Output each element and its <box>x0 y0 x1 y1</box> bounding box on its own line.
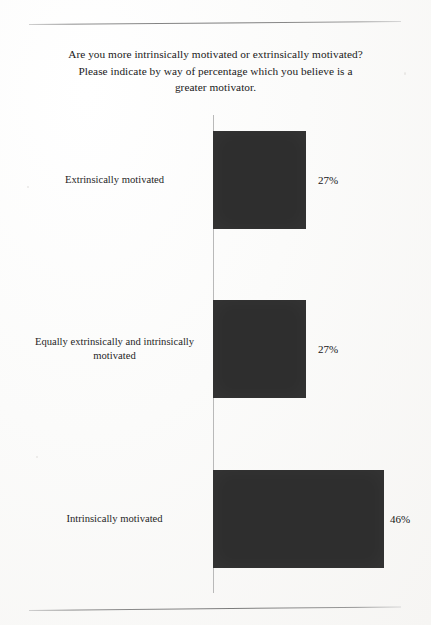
scan-speck <box>36 456 38 458</box>
bar-value-intrinsically-motivated: 46% <box>390 470 410 568</box>
bar-row: Equally extrinsically and intrinsically … <box>0 300 431 398</box>
category-label-equally-extrinsically-and-intrinsically-motivated: Equally extrinsically and intrinsically … <box>22 300 207 398</box>
bar-extrinsically-motivated <box>213 131 306 229</box>
bar-intrinsically-motivated <box>213 470 384 568</box>
bar-chart-plot-area: Extrinsically motivated 27% Equally extr… <box>0 110 431 595</box>
scan-speck <box>404 72 406 75</box>
chart-title-line-1: Are you more intrinsically motivated or … <box>50 46 381 63</box>
bar-value-extrinsically-motivated: 27% <box>318 131 338 229</box>
bar-equally-extrinsically-and-intrinsically-motivated <box>213 300 306 398</box>
bar-row: Extrinsically motivated 27% <box>0 131 431 229</box>
category-label-extrinsically-motivated: Extrinsically motivated <box>22 131 207 229</box>
chart-title-line-2: Please indicate by way of percentage whi… <box>50 63 381 80</box>
chart-title-line-3: greater motivator. <box>50 79 381 96</box>
bar-value-equally-extrinsically-and-intrinsically-motivated: 27% <box>318 300 338 398</box>
scan-speck <box>27 186 29 188</box>
chart-title: Are you more intrinsically motivated or … <box>50 46 381 96</box>
bar-row: Intrinsically motivated 46% <box>0 470 431 568</box>
category-label-intrinsically-motivated: Intrinsically motivated <box>22 470 207 568</box>
